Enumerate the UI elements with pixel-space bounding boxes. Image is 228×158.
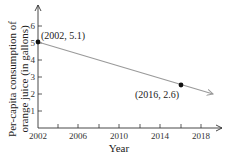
svg-text:1: 1 xyxy=(31,106,36,116)
svg-text:2018: 2018 xyxy=(192,131,211,141)
svg-text:2010: 2010 xyxy=(110,131,129,141)
line-chart: Per-capita consumption of orange juice (… xyxy=(0,0,228,158)
svg-text:4: 4 xyxy=(31,55,36,65)
svg-text:orange juice (in gallons): orange juice (in gallons) xyxy=(18,25,31,133)
svg-text:Per-capita consumption of: Per-capita consumption of xyxy=(6,21,18,137)
annotation-2002: (2002, 5.1) xyxy=(41,30,85,42)
annotation-2016: (2016, 2.6) xyxy=(135,89,179,101)
svg-text:3: 3 xyxy=(31,72,36,82)
y-axis-title: Per-capita consumption of orange juice (… xyxy=(6,21,31,137)
x-axis-title: Year xyxy=(109,142,130,154)
data-point-2002 xyxy=(36,40,41,45)
y-tick-labels: 1 2 3 4 5 6 xyxy=(31,21,36,116)
x-tick-labels: 2002 2006 2010 2014 2018 xyxy=(29,131,211,141)
svg-text:2006: 2006 xyxy=(69,131,88,141)
trend-line xyxy=(38,42,213,94)
svg-text:2002: 2002 xyxy=(29,131,47,141)
svg-text:2014: 2014 xyxy=(151,131,170,141)
svg-text:2: 2 xyxy=(31,89,36,99)
x-axis-ticks xyxy=(58,124,201,128)
svg-text:5: 5 xyxy=(31,38,36,48)
data-point-2016 xyxy=(179,83,184,88)
svg-text:6: 6 xyxy=(31,21,36,31)
